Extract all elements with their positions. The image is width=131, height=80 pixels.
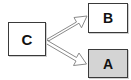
diagram-canvas: C B A <box>0 0 131 80</box>
node-c[interactable]: C <box>8 22 46 56</box>
node-b-label: B <box>103 11 113 25</box>
node-c-label: C <box>22 32 33 47</box>
node-a[interactable]: A <box>88 49 128 78</box>
node-a-label: A <box>103 57 113 71</box>
edge-c-to-b-arrow <box>47 16 88 41</box>
edge-c-to-a-arrow <box>46 40 87 66</box>
node-b[interactable]: B <box>88 3 128 33</box>
